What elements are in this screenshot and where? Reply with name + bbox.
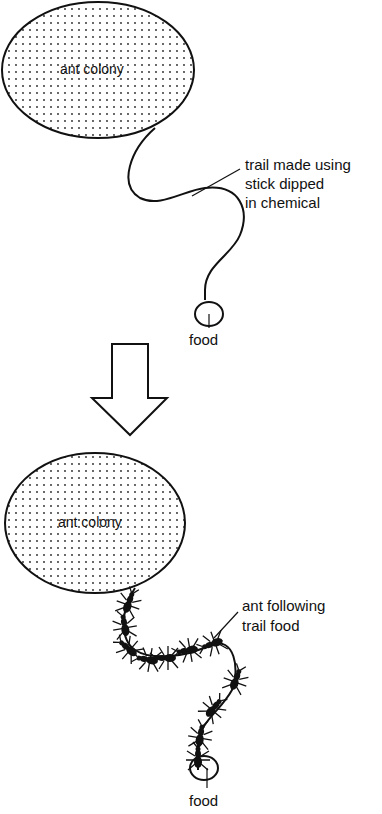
ants-label-line-1: ant following [242, 596, 325, 615]
ant-trail [124, 588, 236, 770]
ants-label-line-2: trail food [242, 616, 300, 635]
food-label-before: food [189, 330, 218, 349]
trail-label-line-1: trail made using [245, 155, 351, 174]
ants-leader-line [214, 612, 238, 638]
diagram-canvas [0, 0, 382, 814]
down-arrow-icon [92, 344, 167, 435]
food-label-after: food [189, 791, 218, 810]
chemical-trail [128, 128, 243, 300]
trail-leader-line [192, 169, 240, 196]
colony-label-before: ant colony [60, 60, 124, 79]
trail-label-line-3: in chemical [245, 193, 320, 212]
trail-label-line-2: stick dipped [245, 174, 324, 193]
ants-group [108, 584, 252, 770]
colony-label-after: ant colony [58, 513, 122, 532]
